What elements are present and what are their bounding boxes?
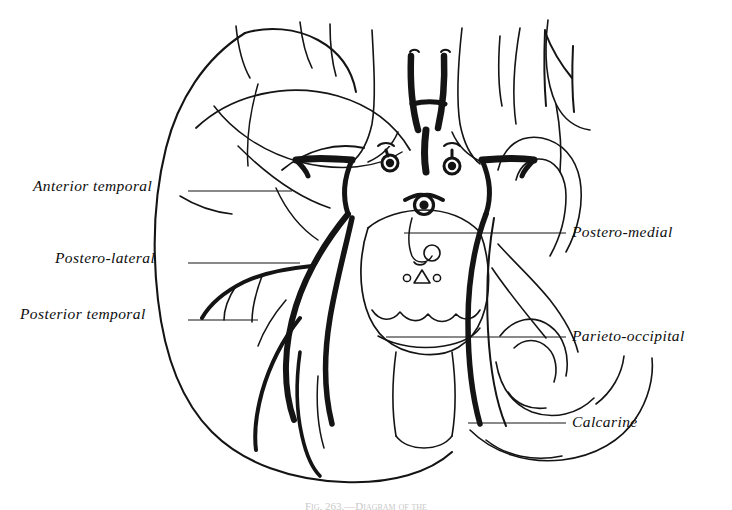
label-anterior-temporal: Anterior temporal (33, 178, 152, 194)
label-postero-medial: Postero-medial (572, 224, 673, 240)
label-posterior-temporal: Posterior temporal (20, 306, 146, 322)
basilar-artery (425, 130, 427, 172)
label-parieto-occipital: Parieto-occipital (572, 328, 685, 344)
label-postero-lateral: Postero-lateral (55, 250, 155, 266)
label-calcarine: Calcarine (572, 414, 638, 430)
figure-caption: Fig. 263.—Diagram of the (0, 500, 732, 510)
